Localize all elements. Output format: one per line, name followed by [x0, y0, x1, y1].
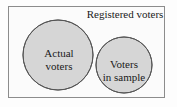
- set-label-voters-in-sample: Voters in sample: [98, 58, 150, 83]
- set-label-actual-voters-line2: voters: [33, 60, 85, 73]
- set-label-actual-voters: Actual voters: [33, 47, 85, 72]
- set-label-voters-in-sample-line2: in sample: [98, 71, 150, 84]
- venn-diagram-figure: Registered voters Actual voters Voters i…: [0, 0, 177, 107]
- universe-label: Registered voters: [86, 8, 164, 20]
- set-label-actual-voters-line1: Actual: [33, 47, 85, 60]
- set-label-voters-in-sample-line1: Voters: [98, 58, 150, 71]
